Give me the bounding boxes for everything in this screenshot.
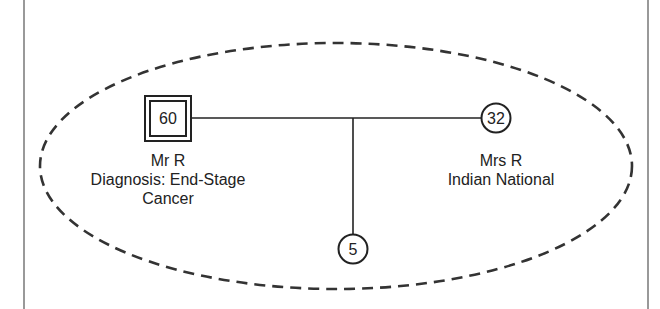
- child-age: 5: [349, 241, 358, 259]
- mrs-r-name: Mrs R: [448, 151, 555, 170]
- mr-r-age: 60: [159, 110, 177, 128]
- mr-r-diagnosis-cont: Cancer: [91, 189, 246, 208]
- genogram-diagram: 60 32 5 Mr R Diagnosis: End-Stage Cancer…: [0, 0, 660, 309]
- mrs-r-label: Mrs R Indian National: [448, 151, 555, 189]
- mr-r-label: Mr R Diagnosis: End-Stage Cancer: [91, 151, 246, 208]
- mrs-r-age: 32: [487, 110, 505, 128]
- mr-r-name: Mr R: [91, 151, 246, 170]
- mr-r-diagnosis: Diagnosis: End-Stage: [91, 170, 246, 189]
- mrs-r-nationality: Indian National: [448, 170, 555, 189]
